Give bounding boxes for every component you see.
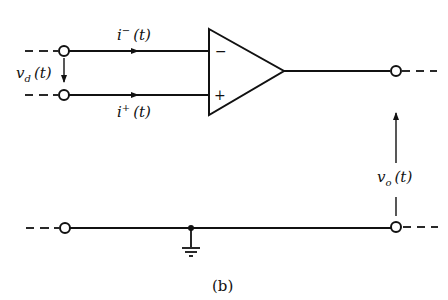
i-plus-arg: (t) [133,103,151,121]
i-minus-arg: (t) [133,26,151,44]
label-i-plus: i+ (t) [117,103,151,120]
ground-node-dot [188,225,194,231]
i-minus-sup: − [122,25,130,36]
terminal-ground-right [391,222,401,232]
ground-icon [182,228,200,256]
terminal-noninverting [59,90,69,100]
op-amp-minus-sign: − [215,44,227,58]
figure-label: (b) [212,279,233,294]
label-v-d: vd (t) [16,66,52,84]
v-d-arg: (t) [34,64,52,82]
v-o-arg: (t) [395,168,413,186]
terminal-ground-left [60,223,70,233]
terminal-output [391,66,401,76]
i-plus-sup: + [122,102,130,113]
label-i-minus: i− (t) [117,26,151,43]
op-amp-plus-sign: + [214,88,226,102]
label-v-o: vo (t) [377,170,412,188]
terminal-inverting [59,46,69,56]
v-d-sub: d [24,73,30,84]
v-o-sub: o [385,177,391,188]
